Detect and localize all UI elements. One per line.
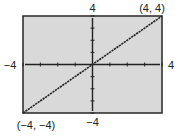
y-min-label: −4 [86,116,99,128]
point-annotation-bottom-left: (−4, −4) [17,119,56,131]
x-min-label: −4 [4,59,17,71]
point-annotation-top-right: (4, 4) [139,2,165,14]
y-max-label: 4 [89,2,95,14]
x-max-label: 4 [168,59,174,71]
graphing-calculator-plot: 4 −4 −4 4 (4, 4) (−4, −4) [0,0,181,136]
